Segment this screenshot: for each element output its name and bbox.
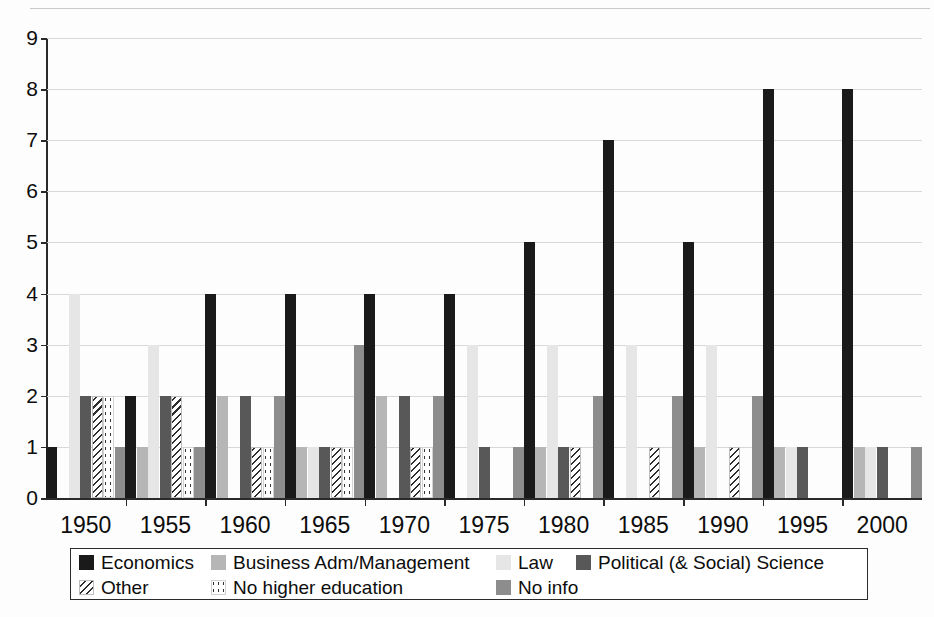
- bar: [354, 345, 365, 498]
- y-tick-label: 6: [2, 180, 38, 201]
- bar: [570, 447, 581, 498]
- legend-label: Business Adm/Management: [233, 553, 470, 572]
- y-tick-mark: [41, 89, 47, 91]
- bar: [694, 447, 705, 498]
- x-tick-label: 1960: [219, 512, 270, 538]
- bar-group: [763, 38, 843, 498]
- legend-entry: Law: [496, 549, 553, 575]
- bar-chart: 0123456789 19501955196019651970197519801…: [0, 24, 934, 524]
- y-axis-labels: 0123456789: [0, 38, 38, 498]
- legend-label: Law: [518, 553, 553, 572]
- legend-entry: No higher education: [211, 574, 403, 600]
- bar: [285, 294, 296, 498]
- bar: [877, 447, 888, 498]
- bar: [422, 447, 433, 498]
- y-tick-label: 0: [2, 487, 38, 508]
- bar: [308, 447, 319, 498]
- y-tick-label: 1: [2, 436, 38, 457]
- legend-entry: Other: [79, 574, 149, 600]
- x-tick-label: 1985: [618, 512, 669, 538]
- bar: [444, 294, 455, 498]
- bar: [115, 447, 126, 498]
- legend-entry: No info: [496, 574, 578, 600]
- y-tick-mark: [41, 447, 47, 449]
- x-tick-label: 1995: [777, 512, 828, 538]
- bar: [125, 396, 136, 498]
- bar-group: [444, 38, 524, 498]
- bar: [274, 396, 285, 498]
- x-tick-mark: [365, 498, 367, 506]
- legend-swatch-icon: [211, 555, 226, 570]
- bar-group: [205, 38, 285, 498]
- bar-group: [683, 38, 763, 498]
- y-tick-mark: [41, 345, 47, 347]
- y-tick-mark: [41, 242, 47, 244]
- y-tick-label: 5: [2, 231, 38, 252]
- bar: [558, 447, 569, 498]
- bar: [217, 396, 228, 498]
- x-tick-label: 2000: [857, 512, 908, 538]
- bar: [296, 447, 307, 498]
- x-tick-mark: [683, 498, 685, 506]
- bar-group: [524, 38, 604, 498]
- bar: [763, 89, 774, 498]
- bar-group: [285, 38, 365, 498]
- bar: [171, 396, 182, 498]
- y-tick-mark: [41, 38, 47, 40]
- bar-group: [364, 38, 444, 498]
- x-tick-mark: [444, 498, 446, 506]
- legend-swatch-icon: [211, 580, 226, 595]
- bar: [752, 396, 763, 498]
- x-tick-mark: [763, 498, 765, 506]
- bar: [376, 396, 387, 498]
- legend-row: EconomicsBusiness Adm/ManagementLawPolit…: [71, 549, 867, 575]
- page-top-rule: [30, 8, 930, 9]
- bar: [842, 89, 853, 498]
- legend-row: OtherNo higher educationNo info: [71, 574, 867, 600]
- legend-swatch-icon: [79, 555, 94, 570]
- bar: [263, 447, 274, 498]
- bar: [854, 447, 865, 498]
- bar: [683, 242, 694, 498]
- bar: [319, 447, 330, 498]
- x-tick-label: 1980: [538, 512, 589, 538]
- x-tick-mark: [842, 498, 844, 506]
- legend-label: Economics: [101, 553, 194, 572]
- bar: [479, 447, 490, 498]
- x-tick-label: 1950: [60, 512, 111, 538]
- bar: [137, 447, 148, 498]
- bar-group: [125, 38, 205, 498]
- y-tick-mark: [41, 396, 47, 398]
- bar: [626, 345, 637, 498]
- x-tick-mark: [603, 498, 605, 506]
- x-axis-labels: 1950195519601965197019751980198519901995…: [46, 512, 922, 546]
- legend-label: Political (& Social) Science: [598, 553, 824, 572]
- bar: [364, 294, 375, 498]
- legend-label: No higher education: [233, 578, 403, 597]
- bar: [524, 242, 535, 498]
- bar: [183, 447, 194, 498]
- legend-entry: Business Adm/Management: [211, 549, 470, 575]
- bar: [513, 447, 524, 498]
- legend-label: No info: [518, 578, 578, 597]
- bar: [205, 294, 216, 498]
- x-tick-mark: [285, 498, 287, 506]
- legend-entry: Economics: [79, 549, 194, 575]
- y-tick-label: 4: [2, 283, 38, 304]
- bar: [399, 396, 410, 498]
- x-tick-mark: [205, 498, 207, 506]
- bar: [80, 396, 91, 498]
- bar-group: [46, 38, 126, 498]
- x-tick-label: 1965: [299, 512, 350, 538]
- x-tick-label: 1990: [697, 512, 748, 538]
- bars-layer: [46, 38, 922, 498]
- bar: [729, 447, 740, 498]
- legend-entry: Political (& Social) Science: [576, 549, 824, 575]
- y-tick-mark: [41, 498, 47, 500]
- y-tick-label: 3: [2, 334, 38, 355]
- bar: [774, 447, 785, 498]
- bar: [865, 447, 876, 498]
- legend-swatch-icon: [576, 555, 591, 570]
- chart-page: 0123456789 19501955196019651970197519801…: [0, 0, 934, 617]
- bar: [433, 396, 444, 498]
